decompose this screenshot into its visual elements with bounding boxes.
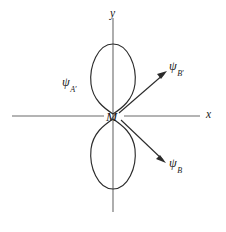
label-axis-y: y: [110, 8, 115, 20]
label-psi-a-prime: ψA′: [62, 76, 76, 92]
label-psi-b: ψB: [169, 157, 182, 173]
label-psi-b-prime: ψB′: [169, 60, 183, 76]
arrow-line-psi-b-lower: [121, 120, 163, 160]
psi-b-lower-symbol: ψ: [169, 156, 177, 170]
arrow-head-psi-b-lower: [156, 155, 166, 163]
psi-a-symbol: ψ: [62, 75, 70, 89]
label-center-atom-m: M: [106, 110, 117, 124]
arrow-line-psi-b-upper: [119, 74, 164, 113]
psi-b-upper-symbol: ψ: [169, 59, 177, 73]
psi-b-lower-subscript: B: [177, 166, 182, 175]
label-axis-x: x: [206, 109, 211, 121]
arrow-head-psi-b-upper: [157, 71, 167, 79]
orbital-diagram-figure: ψA′ ψB′ ψB M y x: [0, 0, 226, 232]
